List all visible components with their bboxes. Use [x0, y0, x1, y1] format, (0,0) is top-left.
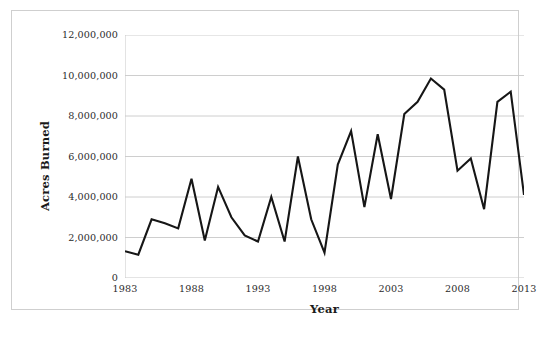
line-chart-svg [125, 35, 524, 278]
x-axis-title-text: Year [310, 302, 339, 316]
figure-caption [14, 328, 514, 339]
y-axis-title: Acres Burned [34, 106, 56, 226]
y-axis-tick-label: 6,000,000 [54, 151, 118, 162]
data-line-acres-burned [125, 79, 524, 255]
x-axis-tick-labels: 1983198819931998200320082013 [125, 283, 524, 301]
y-axis-tick-label: 8,000,000 [54, 110, 118, 121]
y-axis-tick-label: 10,000,000 [54, 70, 118, 81]
chart-frame: Acres Burned 02,000,0004,000,0006,000,00… [11, 10, 519, 310]
y-axis-tick-label: 4,000,000 [54, 191, 118, 202]
plot-area [125, 35, 524, 278]
x-axis-tick-label: 1993 [246, 283, 271, 294]
x-axis-tick-label: 2013 [512, 283, 537, 294]
x-axis-title: Year [125, 302, 524, 316]
y-axis-tick-label: 0 [54, 272, 118, 283]
x-axis-tick-label: 1998 [312, 283, 337, 294]
y-axis-tick-label: 12,000,000 [54, 29, 118, 40]
y-axis-tick-label: 2,000,000 [54, 232, 118, 243]
x-axis-tick-label: 1988 [179, 283, 204, 294]
x-axis-tick-label: 2003 [379, 283, 404, 294]
x-axis-tick-label: 1983 [113, 283, 138, 294]
y-axis-tick-labels: 02,000,0004,000,0006,000,0008,000,00010,… [54, 11, 118, 339]
x-axis-tick-label: 2008 [445, 283, 470, 294]
y-axis-title-text: Acres Burned [38, 121, 52, 211]
gridlines [125, 35, 524, 278]
